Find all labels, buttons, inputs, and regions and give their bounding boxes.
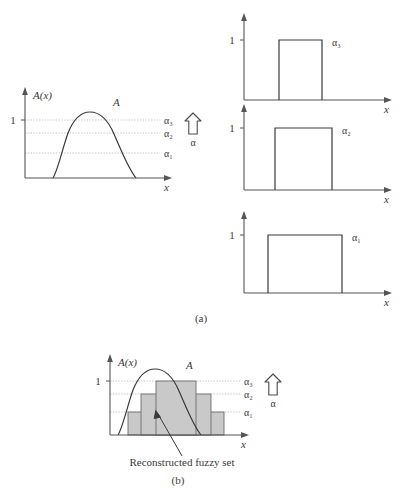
x-axis-label: x (383, 103, 389, 115)
membership-curve (53, 112, 136, 178)
alpha-up-arrow-icon-b: α (265, 374, 281, 409)
y-axis-label: A(x) (117, 356, 137, 369)
alpha1-cut-label: α₁ (352, 232, 361, 243)
x-axis (244, 290, 392, 296)
y-tick-label-1: 1 (229, 229, 235, 241)
alpha-arrow-label: α (190, 137, 196, 148)
y-axis (241, 13, 247, 100)
alpha1-cut-rectangle (268, 235, 342, 293)
panel-a-caption: (a) (195, 312, 208, 325)
alpha2-cut-label: α₂ (342, 125, 351, 136)
x-axis (244, 187, 392, 193)
alpha3-cut-label: α₃ (332, 37, 341, 48)
reconstructed-staircase (128, 381, 224, 435)
alpha3-cut-rectangle (279, 40, 322, 100)
panel-b-caption: (b) (172, 474, 185, 487)
figure-alpha-cut-decomposition: 1 A(x) x A α₃ α₂ α₁ α 1 x α₃ (0, 0, 402, 495)
alpha2-cut-rectangle (275, 128, 332, 190)
x-axis (25, 175, 172, 181)
x-axis (244, 97, 392, 103)
x-axis-label: x (383, 296, 389, 308)
y-tick-label-1: 1 (10, 114, 16, 126)
panel-a-cut-alpha3-chart: 1 x α₃ (229, 13, 392, 115)
y-axis (241, 211, 247, 293)
panel-b-reconstructed-chart: 1 A(x) x A α₃ α₂ α₁ (95, 354, 252, 456)
alpha2-level-label: α₂ (164, 128, 173, 139)
x-axis-label: x (240, 438, 246, 450)
curve-label-A: A (185, 359, 193, 371)
staircase-rect-alpha3 (156, 381, 196, 435)
alpha1-level-label: α₁ (164, 148, 173, 159)
alpha-gridlines (25, 120, 160, 153)
x-axis-label: x (383, 193, 389, 205)
alpha-arrow-label: α (270, 398, 276, 409)
y-tick-label-1: 1 (229, 122, 235, 134)
alpha-up-arrow-icon: α (185, 113, 201, 148)
curve-label-A: A (112, 96, 120, 108)
alpha3-level-label: α₃ (164, 115, 173, 126)
y-tick-label-1: 1 (229, 34, 235, 46)
alpha3-level-label: α₃ (244, 376, 253, 387)
y-axis (22, 87, 28, 178)
y-axis (241, 104, 247, 190)
alpha2-level-label: α₂ (244, 389, 253, 400)
panel-a-membership-chart: 1 A(x) x A α₃ α₂ α₁ (10, 87, 172, 193)
x-axis-label: x (163, 181, 169, 193)
y-tick-label-1: 1 (95, 375, 101, 387)
panel-a-cut-alpha1-chart: 1 x α₁ (229, 211, 392, 308)
y-axis (107, 354, 113, 435)
reconstructed-annotation: Reconstructed fuzzy set (129, 456, 234, 468)
y-axis-label: A(x) (32, 89, 52, 102)
panel-a-cut-alpha2-chart: 1 x α₂ (229, 104, 392, 205)
alpha1-level-label: α₁ (244, 407, 253, 418)
